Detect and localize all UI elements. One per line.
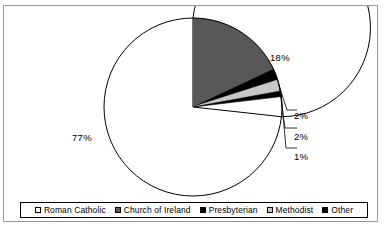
- value-label-methodist: 2%: [294, 131, 308, 142]
- value-label-roman-catholic: 77%: [72, 132, 92, 143]
- legend-swatch-church-of-ireland: [115, 207, 121, 213]
- value-label-presbyterian: 2%: [294, 110, 308, 121]
- pie-chart-graphic: [4, 6, 377, 221]
- legend-label-church-of-ireland: Church of Ireland: [124, 205, 191, 215]
- value-label-church-of-ireland: 18%: [270, 52, 290, 63]
- legend-label-presbyterian: Presbyterian: [209, 205, 258, 215]
- legend-label-other: Other: [331, 205, 353, 215]
- chart-frame: 77% 18% 2% 2% 1% Roman Catholic Church o…: [3, 5, 378, 222]
- legend-label-roman-catholic: Roman Catholic: [44, 205, 106, 215]
- legend-item-presbyterian[interactable]: Presbyterian: [200, 205, 258, 215]
- legend-swatch-presbyterian: [200, 207, 206, 213]
- value-label-other: 1%: [294, 151, 308, 162]
- legend-swatch-other: [322, 207, 328, 213]
- legend-item-methodist[interactable]: Methodist: [267, 205, 314, 215]
- legend-item-other[interactable]: Other: [322, 205, 353, 215]
- legend-label-methodist: Methodist: [276, 205, 314, 215]
- legend-swatch-roman-catholic: [35, 207, 41, 213]
- plot-area: 77% 18% 2% 2% 1%: [4, 6, 377, 221]
- legend-swatch-methodist: [267, 207, 273, 213]
- pie-chart-screenshot: 77% 18% 2% 2% 1% Roman Catholic Church o…: [0, 0, 385, 232]
- chart-legend: Roman Catholic Church of Ireland Presbyt…: [20, 202, 368, 218]
- legend-item-roman-catholic[interactable]: Roman Catholic: [35, 205, 106, 215]
- legend-item-church-of-ireland[interactable]: Church of Ireland: [115, 205, 191, 215]
